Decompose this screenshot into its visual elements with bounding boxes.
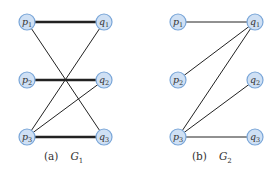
caption-g1-tag: (a) — [44, 150, 58, 162]
edge-g2-p3-q1 — [178, 22, 255, 137]
edges-layer — [27, 22, 255, 137]
caption-g1-name: G1 — [70, 150, 83, 162]
node-g2-p3: p3 — [170, 129, 186, 145]
caption-g1: (a)G1 — [44, 150, 83, 165]
node-g1-p2: p2 — [19, 72, 35, 88]
edge-g2-p3-q2 — [178, 80, 255, 137]
node-g1-q1: q1 — [96, 14, 112, 30]
edge-g1-p3-q2 — [27, 80, 104, 137]
node-g1-q2: q2 — [96, 72, 112, 88]
node-g1-p3: p3 — [19, 129, 35, 145]
bipartite-graphs-figure: p1p2p3q1q2q3p1p2p3q1q2q3 — [0, 0, 278, 177]
node-g2-q1: q1 — [247, 14, 263, 30]
node-g2-p2: p2 — [170, 72, 186, 88]
caption-g2-tag: (b) — [192, 150, 207, 162]
node-g2-q3: q3 — [247, 129, 263, 145]
caption-g2-name: G2 — [219, 150, 232, 162]
node-g2-p1: p1 — [170, 14, 186, 30]
node-g1-q3: q3 — [96, 129, 112, 145]
edge-g2-p2-q1 — [178, 22, 255, 80]
caption-g2: (b)G2 — [192, 150, 232, 165]
node-g1-p1: p1 — [19, 14, 35, 30]
node-g2-q2: q2 — [247, 72, 263, 88]
